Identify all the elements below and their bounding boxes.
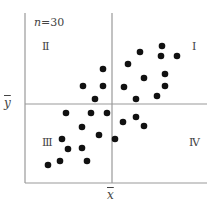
data-point	[45, 162, 52, 169]
n-value: =30	[41, 16, 64, 29]
data-point	[65, 146, 72, 153]
data-point	[159, 43, 166, 50]
data-point	[133, 114, 140, 121]
data-point	[104, 110, 111, 117]
data-point	[125, 61, 132, 68]
data-point	[100, 83, 107, 90]
sample-size-label: n=30	[34, 16, 64, 29]
data-point	[88, 110, 95, 117]
data-point	[120, 119, 127, 126]
data-point	[137, 49, 144, 56]
data-point	[100, 66, 107, 73]
data-point	[92, 96, 99, 103]
data-point	[84, 158, 91, 165]
quadrant-I-label: Ⅰ	[192, 40, 196, 53]
data-point	[96, 132, 103, 139]
data-point	[79, 145, 86, 152]
data-point	[158, 53, 165, 60]
data-point	[121, 84, 128, 91]
data-point	[133, 96, 140, 103]
scatter-plot	[0, 0, 219, 210]
data-point	[63, 110, 70, 117]
x-mean-label: x	[107, 188, 114, 202]
data-point	[59, 136, 66, 143]
y-mean-label: y	[4, 96, 11, 110]
data-point	[112, 136, 119, 143]
quadrant-IV-label: Ⅳ	[189, 136, 200, 149]
quadrant-II-label: Ⅱ	[42, 40, 49, 53]
data-point	[80, 83, 87, 90]
axes	[25, 13, 207, 183]
quadrant-III-label: Ⅲ	[42, 136, 53, 149]
data-point	[154, 93, 161, 100]
data-point	[57, 158, 64, 165]
data-point	[162, 71, 169, 78]
data-point	[162, 83, 169, 90]
data-point	[141, 75, 148, 82]
data-point	[79, 124, 86, 131]
data-point	[174, 53, 181, 60]
data-point	[141, 123, 148, 130]
